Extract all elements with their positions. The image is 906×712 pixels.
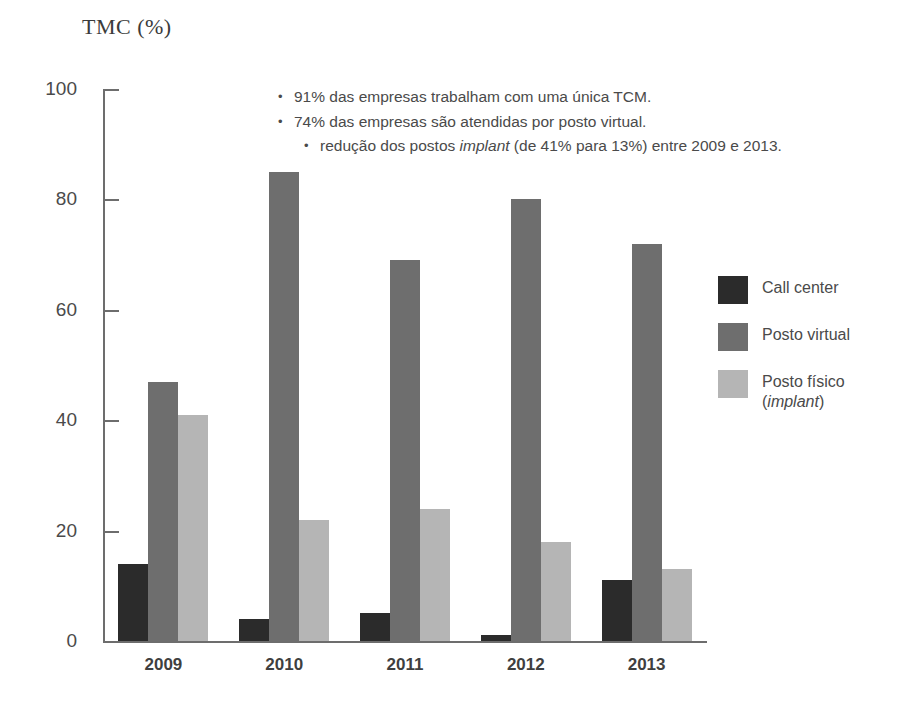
- annotation-line: •74% das empresas são atendidas por post…: [278, 109, 748, 134]
- bar-group-2012: [481, 89, 571, 641]
- bar-group-2009: [118, 89, 208, 641]
- chart-annotations: •91% das empresas trabalham com uma únic…: [278, 84, 748, 158]
- bar[interactable]: [239, 619, 269, 641]
- bar[interactable]: [662, 569, 692, 641]
- bar-group-2013: [602, 89, 692, 641]
- y-axis-tick: [103, 531, 119, 533]
- bar[interactable]: [481, 635, 511, 641]
- bar[interactable]: [420, 509, 450, 641]
- x-axis-label-2013: 2013: [628, 655, 666, 675]
- annotation-text: 74% das empresas são atendidas por posto…: [294, 113, 646, 130]
- legend-swatch-icon: [718, 323, 748, 351]
- bar[interactable]: [178, 415, 208, 641]
- bar[interactable]: [390, 260, 420, 641]
- y-axis-tick: [103, 199, 119, 201]
- bar[interactable]: [541, 542, 571, 641]
- annotation-text: redução dos postos implant (de 41% para …: [320, 137, 782, 154]
- bar[interactable]: [118, 564, 148, 641]
- x-axis-label-2012: 2012: [507, 655, 545, 675]
- bar[interactable]: [269, 172, 299, 641]
- chart-plot-area: 020406080100 20092010201120122013: [103, 89, 707, 643]
- bullet-icon: •: [278, 112, 294, 132]
- bullet-icon: •: [278, 87, 294, 107]
- page-title: TMC (%): [82, 14, 172, 40]
- y-axis-tick-label: 80: [56, 188, 77, 210]
- annotation-text: 91% das empresas trabalham com uma única…: [294, 88, 651, 105]
- chart-legend: Call centerPosto virtualPosto físico(imp…: [718, 276, 898, 432]
- x-axis-line: [103, 641, 707, 643]
- y-axis-tick: [103, 420, 119, 422]
- legend-item-0[interactable]: Call center: [718, 276, 898, 304]
- annotation-line: •91% das empresas trabalham com uma únic…: [278, 84, 748, 109]
- y-axis-tick: [103, 641, 119, 643]
- legend-label: Posto físico(implant): [762, 370, 845, 413]
- legend-swatch-icon: [718, 276, 748, 304]
- x-axis-label-2011: 2011: [387, 655, 424, 675]
- bar[interactable]: [511, 199, 541, 641]
- y-axis-tick-label: 100: [45, 78, 77, 100]
- x-axis-label-2010: 2010: [265, 655, 303, 675]
- annotation-line: •redução dos postos implant (de 41% para…: [278, 133, 748, 158]
- legend-item-2[interactable]: Posto físico(implant): [718, 370, 898, 413]
- bar[interactable]: [632, 244, 662, 641]
- y-axis-tick-label: 40: [56, 409, 77, 431]
- x-axis-label-2009: 2009: [144, 655, 182, 675]
- bar-group-2011: [360, 89, 450, 641]
- y-axis-tick-label: 20: [56, 520, 77, 542]
- bar[interactable]: [360, 613, 390, 641]
- y-axis-tick: [103, 89, 119, 91]
- legend-label: Posto virtual: [762, 323, 850, 345]
- y-axis-tick: [103, 310, 119, 312]
- y-axis-tick-label: 60: [56, 299, 77, 321]
- bar[interactable]: [602, 580, 632, 641]
- bar-group-2010: [239, 89, 329, 641]
- y-axis-line: [103, 89, 105, 643]
- bullet-icon: •: [304, 136, 320, 156]
- bar[interactable]: [148, 382, 178, 641]
- legend-label: Call center: [762, 276, 838, 298]
- legend-item-1[interactable]: Posto virtual: [718, 323, 898, 351]
- y-axis-tick-label: 0: [66, 630, 77, 652]
- bar[interactable]: [299, 520, 329, 641]
- legend-swatch-icon: [718, 370, 748, 398]
